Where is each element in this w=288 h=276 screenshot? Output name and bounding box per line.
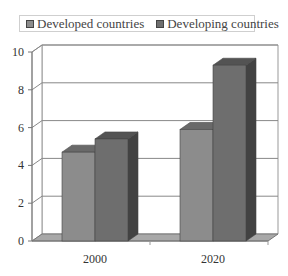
- x-tick-label: 2020: [201, 252, 225, 266]
- bar-developed-countries-2000: [62, 152, 95, 241]
- bar-developing-countries-2000: [95, 139, 128, 241]
- y-tick-label: 0: [18, 234, 24, 248]
- y-tick-label: 2: [18, 196, 24, 210]
- y-tick-label: 10: [12, 45, 24, 59]
- bar-side: [128, 132, 138, 241]
- x-tick-label: 2000: [83, 252, 107, 266]
- bar-chart: 024681020002020: [0, 0, 288, 276]
- bar-developed-countries-2020: [180, 129, 213, 241]
- plot-side-wall: [32, 45, 42, 241]
- y-tick-label: 8: [18, 83, 24, 97]
- bar-developing-countries-2020: [213, 65, 246, 241]
- y-tick-label: 6: [18, 121, 24, 135]
- bar-side: [246, 58, 256, 241]
- y-tick-label: 4: [18, 158, 24, 172]
